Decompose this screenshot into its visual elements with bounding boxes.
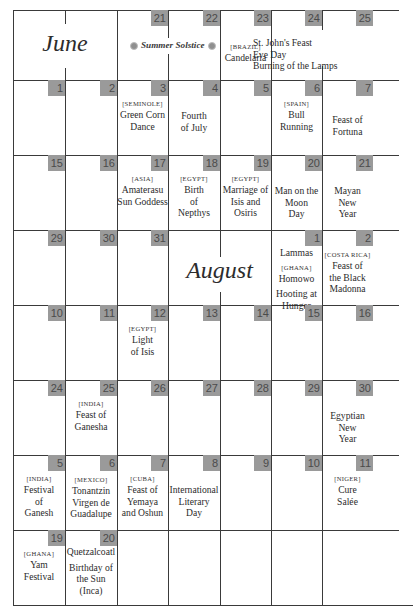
event-text: Day <box>164 507 224 519</box>
day-cell[interactable]: 18 [EGYPT] Birth of Nepthys <box>168 155 220 230</box>
day-cell[interactable]: 24 <box>13 380 65 455</box>
day-cell[interactable]: 7 [CUBA] Feast of Yemaya and Oshun <box>117 455 168 530</box>
event: Quetzalcoatl Birthday of the Sun (Inca) <box>65 546 117 596</box>
day-cell[interactable]: 7 Feast of Fortuna <box>322 80 399 155</box>
event: [MEXICO] Tonantzin Virgen de Guadalupe <box>65 475 117 520</box>
event-text: Ganesh <box>13 507 65 519</box>
event-text: Mayan <box>322 185 373 197</box>
day-cell[interactable]: 10 <box>271 455 322 530</box>
event: [INDIA] Festival of Ganesh <box>13 474 65 519</box>
event: Egyptian New Year <box>322 410 373 445</box>
day-cell[interactable]: 2 [COSTA RICA] Feast of the Black Madonn… <box>322 230 399 305</box>
event-text: of Isis <box>117 346 168 358</box>
day-cell[interactable]: 15 <box>271 305 322 380</box>
event-text: Egyptian <box>322 410 373 422</box>
day-cell[interactable]: 16 <box>65 155 117 230</box>
month-label-cell-june: June <box>13 10 117 80</box>
day-cell[interactable]: 3 [SEMINOLE] Green Corn Dance <box>117 80 168 155</box>
date-badge: 13 <box>203 305 220 321</box>
region-tag: [EGYPT] <box>168 174 220 184</box>
event-text: Sun Goddess <box>117 196 168 208</box>
event-text: Guadalupe <box>65 508 117 520</box>
event-text: Yemaya <box>117 496 168 508</box>
region-tag: [EGYPT] <box>117 324 168 334</box>
day-cell[interactable]: 1 <box>13 80 65 155</box>
event-text: Tonantzin <box>65 485 117 497</box>
day-cell[interactable]: 16 <box>322 305 399 380</box>
event-text: Festival <box>13 484 65 496</box>
day-cell[interactable]: 27 <box>168 380 220 455</box>
day-cell[interactable]: 21 Mayan New Year <box>322 155 399 230</box>
day-cell[interactable]: 14 <box>220 305 271 380</box>
day-cell[interactable]: 28 <box>220 380 271 455</box>
day-cell[interactable] <box>322 530 399 605</box>
event-text: Virgen de <box>65 497 117 509</box>
day-cell[interactable]: 20 Quetzalcoatl Birthday of the Sun (Inc… <box>65 530 117 605</box>
date-badge: 24 <box>305 10 322 26</box>
event-text: Feast of <box>322 114 373 126</box>
event-text: Ganesha <box>65 421 117 433</box>
day-cell[interactable]: 17 [ASIA] Amaterasu Sun Goddess <box>117 155 168 230</box>
event: [GHANA] Yam Festival <box>13 549 65 582</box>
day-cell[interactable]: 31 <box>117 230 168 305</box>
date-badge: 29 <box>305 380 322 396</box>
sun-icon <box>130 42 138 50</box>
day-cell[interactable]: 4 Fourth of July <box>168 80 220 155</box>
day-cell[interactable]: 29 <box>271 380 322 455</box>
month-label-cell-august: August <box>168 230 271 305</box>
day-cell[interactable]: 6 [MEXICO] Tonantzin Virgen de Guadalupe <box>65 455 117 530</box>
day-cell[interactable]: 20 Man on the Moon Day <box>271 155 322 230</box>
event-text: Nepthys <box>168 207 220 219</box>
day-cell[interactable]: 19 [EGYPT] Marriage of Isis and Osiris <box>220 155 271 230</box>
calendar-grid: June 21 22 Summer Solstice 23 [BRAZIL] C… <box>13 10 399 606</box>
day-cell[interactable]: 25 [INDIA] Feast of Ganesha <box>65 380 117 455</box>
day-cell[interactable]: 29 <box>13 230 65 305</box>
day-cell[interactable] <box>117 530 168 605</box>
day-cell[interactable]: 15 <box>13 155 65 230</box>
day-cell[interactable]: 25 <box>322 10 399 80</box>
day-cell[interactable]: 9 <box>220 455 271 530</box>
date-badge: 6 <box>305 80 322 96</box>
event-text: Yam <box>13 559 65 571</box>
day-cell[interactable]: 6 [SPAIN] Bull Running <box>271 80 322 155</box>
day-cell[interactable]: 26 <box>117 380 168 455</box>
region-tag: [INDIA] <box>65 399 117 409</box>
date-badge: 25 <box>100 380 117 396</box>
day-cell[interactable]: 8 International Literary Day <box>168 455 220 530</box>
event-text: and Oshun <box>117 507 168 519</box>
date-badge: 21 <box>356 155 373 171</box>
day-cell[interactable] <box>220 530 271 605</box>
event-text: Salée <box>322 496 373 508</box>
day-cell[interactable]: 11 [NIGER] Cure Salée <box>322 455 399 530</box>
date-badge: 5 <box>48 455 65 471</box>
event-text: Birthday of <box>65 562 117 574</box>
day-cell[interactable]: 12 [EGYPT] Light of Isis <box>117 305 168 380</box>
date-badge: 15 <box>48 155 65 171</box>
day-cell[interactable]: 19 [GHANA] Yam Festival <box>13 530 65 605</box>
day-cell[interactable]: 5 <box>220 80 271 155</box>
date-badge: 30 <box>356 380 373 396</box>
day-cell[interactable] <box>168 530 220 605</box>
day-cell[interactable] <box>271 530 322 605</box>
event-text: Fourth <box>168 110 220 122</box>
day-cell[interactable]: 30 <box>65 230 117 305</box>
event-text: Green Corn <box>117 109 168 121</box>
day-cell[interactable]: 11 <box>65 305 117 380</box>
event-text: Lammas <box>271 247 322 259</box>
event-text: Festival <box>13 571 65 583</box>
day-cell[interactable]: 1 Lammas [GHANA] Homowo Hooting at Hunge… <box>271 230 322 305</box>
date-badge: 12 <box>151 305 168 321</box>
day-cell[interactable]: 10 <box>13 305 65 380</box>
event-text: Quetzalcoatl <box>65 546 117 558</box>
date-badge: 20 <box>100 530 117 546</box>
event: [COSTA RICA] Feast of the Black Madonna <box>322 250 373 295</box>
event: [EGYPT] Marriage of Isis and Osiris <box>220 174 271 219</box>
day-cell[interactable]: 30 Egyptian New Year <box>322 380 399 455</box>
day-cell[interactable]: 13 <box>168 305 220 380</box>
event: Mayan New Year <box>322 185 373 220</box>
event: International Literary Day <box>164 484 224 519</box>
date-badge: 30 <box>100 230 117 246</box>
event-text: Isis and <box>220 196 271 208</box>
day-cell[interactable]: 5 [INDIA] Festival of Ganesh <box>13 455 65 530</box>
day-cell[interactable]: 2 <box>65 80 117 155</box>
